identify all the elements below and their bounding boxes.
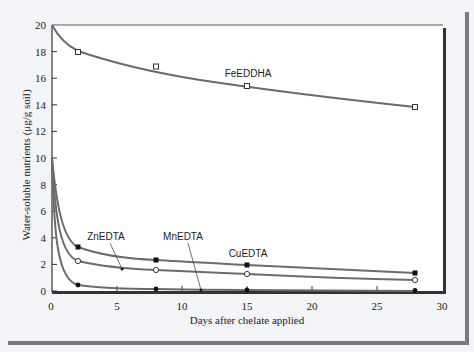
y-tick-labels: 0 2 4 6 8 10 12 14 16 18 20 (35, 19, 47, 297)
y-tick-20: 20 (35, 19, 47, 31)
x-tick-20: 20 (307, 300, 319, 312)
znedta-label: ZnEDTA (87, 231, 125, 242)
x-tick-5: 5 (114, 300, 120, 312)
y-tick-8: 8 (41, 179, 47, 191)
x-tick-25: 25 (372, 300, 384, 312)
cuedta-label: CuEDTA (229, 248, 268, 259)
x-tick-0: 0 (48, 300, 54, 312)
y-tick-18: 18 (35, 46, 47, 58)
x-tick-10: 10 (177, 300, 189, 312)
y-tick-0: 0 (41, 285, 47, 297)
x-axis-title: Days after chelate applied (190, 314, 305, 326)
y-axis-title: Water-soluble nutrients (μg/g soil) (20, 89, 33, 240)
mnedta-leader-line (188, 243, 201, 290)
y-tick-12: 12 (35, 125, 46, 137)
x-tick-15: 15 (242, 300, 254, 312)
y-tick-10: 10 (35, 152, 47, 164)
x-tick-labels: 0 5 10 15 20 25 30 (48, 300, 448, 312)
feeddha-markers (76, 50, 418, 110)
y-tick-16: 16 (35, 72, 47, 84)
y-tick-4: 4 (41, 232, 47, 244)
y-tick-14: 14 (35, 99, 47, 111)
feeddha-label: FeEDDHA (225, 68, 272, 79)
y-tick-6: 6 (41, 205, 47, 217)
y-tick-2: 2 (41, 258, 47, 270)
znedta-curve (52, 158, 415, 280)
feeddha-curve (52, 25, 415, 107)
x-tick-30: 30 (437, 300, 449, 312)
chart-svg: 0 2 4 6 8 10 12 14 16 18 20 0 5 10 15 20… (0, 0, 474, 352)
mnedta-label: MnEDTA (163, 231, 203, 242)
